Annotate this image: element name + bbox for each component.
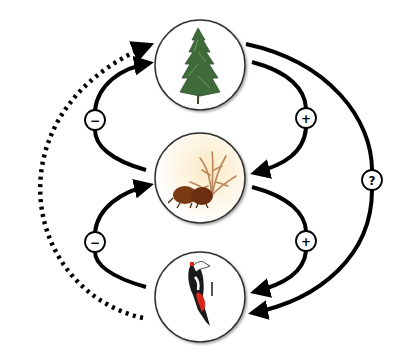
minus-badge-top: − (85, 110, 105, 130)
arrow-tree-to-bird-unknown (246, 44, 372, 313)
trophic-interaction-diagram: − − + + ? (0, 0, 403, 355)
svg-text:?: ? (369, 174, 376, 188)
minus-badge-bottom: − (85, 232, 105, 252)
bird-node (155, 252, 245, 342)
svg-text:−: − (90, 236, 100, 250)
tree-node (155, 20, 245, 110)
svg-text:−: − (90, 114, 100, 128)
svg-text:+: + (301, 112, 311, 126)
beetle-node (155, 133, 245, 223)
svg-text:+: + (301, 235, 311, 249)
question-badge: ? (362, 170, 382, 190)
dotted-feedback-arrow (40, 45, 150, 318)
plus-badge-top: + (296, 108, 316, 128)
plus-badge-bottom: + (296, 231, 316, 251)
